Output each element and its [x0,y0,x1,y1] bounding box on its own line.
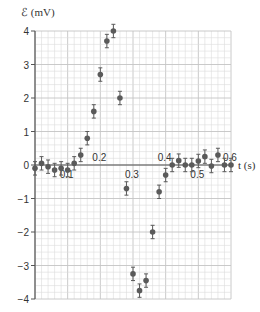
y-tick-label: 1 [23,127,29,138]
y-tick-label: 4 [23,26,29,37]
data-point [39,157,45,170]
y-tick-label: −3 [18,261,30,272]
data-point [111,24,117,37]
y-tick-label: −2 [18,227,30,238]
data-point [130,267,136,280]
data-point [78,148,84,161]
x-tick-label: 0.5 [190,169,204,180]
data-point [124,182,130,195]
data-point [156,185,162,198]
x-axis-label: t (s) [238,159,255,171]
data-point [45,160,51,173]
data-point [91,105,97,118]
x-tick-label: 0.2 [92,152,106,163]
y-tick-label: 3 [23,60,29,71]
y-tick-label: 0 [23,160,29,171]
y-tick-label: −1 [18,194,30,205]
data-point [143,274,149,287]
data-point [32,162,38,175]
data-point [84,132,90,145]
data-point [215,148,221,161]
data-point [104,34,110,47]
data-point [182,158,188,171]
data-point [209,159,215,172]
y-tick-label: −4 [18,294,30,305]
y-axis-label: ℰ (mV) [21,6,55,19]
data-point [163,168,169,181]
data-point [137,284,143,297]
x-tick-label: 0.3 [125,169,139,180]
data-point [202,150,208,163]
data-point [71,157,77,170]
data-point [150,225,156,238]
x-tick-label: 0.4 [158,152,172,163]
emf-chart: 43210−1−2−3−40.10.20.30.40.50.6 [0,0,260,312]
data-point [196,154,202,167]
data-point [98,68,104,81]
x-tick-label: 0.6 [223,152,237,163]
data-point [117,91,123,104]
y-tick-label: 2 [23,93,29,104]
